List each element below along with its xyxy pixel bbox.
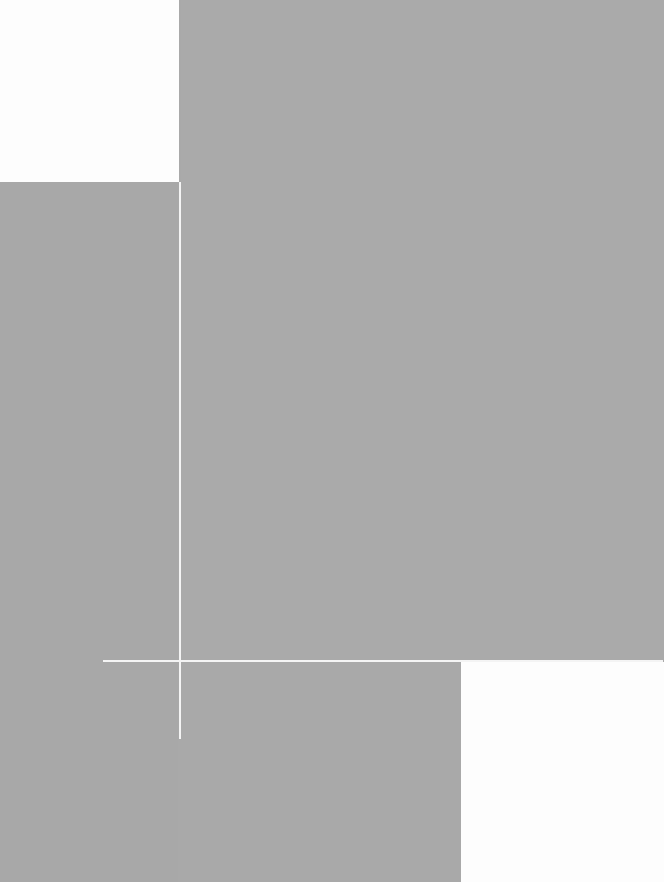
white-rect-bottom-right	[461, 662, 664, 882]
gray-plane-right	[181, 0, 664, 660]
gray-plane-left	[0, 182, 178, 882]
vertical-white-line	[179, 182, 181, 739]
horizontal-white-line	[103, 660, 663, 662]
white-rect-top-left	[0, 0, 179, 182]
